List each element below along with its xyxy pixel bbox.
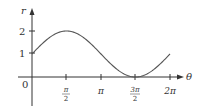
x-label-pi-half-den: 2 xyxy=(64,95,68,103)
polar-cartesian-plot: r θ 0 1 2 π 2 π 3π 2 2π xyxy=(0,0,198,110)
x-label-3pi-half-den: 2 xyxy=(133,95,137,103)
curve-r-1-plus-sin-theta xyxy=(32,31,170,77)
theta-axis-label: θ xyxy=(186,71,192,82)
origin-label: 0 xyxy=(22,79,28,90)
x-label-3pi-half-num: 3π xyxy=(130,86,139,94)
y-axis-arrow-icon xyxy=(30,8,35,15)
y-label-2: 2 xyxy=(19,26,25,37)
r-axis-label: r xyxy=(21,5,27,16)
y-label-1: 1 xyxy=(19,48,25,59)
x-label-2pi: 2π xyxy=(163,86,177,96)
x-label-pi: π xyxy=(97,86,105,96)
x-axis-arrow-icon xyxy=(177,75,184,80)
x-label-pi-half-num: π xyxy=(63,86,69,94)
